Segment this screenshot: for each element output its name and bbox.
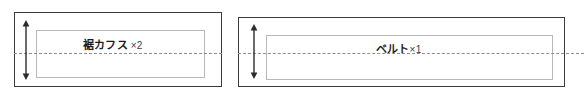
piece-name-right: ベルト bbox=[376, 43, 410, 56]
pattern-piece-label-left: 裾カフス×2 bbox=[83, 36, 143, 52]
pattern-piece-label-right: ベルト×1 bbox=[376, 40, 421, 56]
height-dimension-arrow-right bbox=[248, 24, 260, 79]
height-dimension-arrow-left bbox=[20, 20, 32, 80]
pattern-layout-diagram: 裾カフス×2 ベルト×1 bbox=[0, 0, 584, 101]
piece-quantity-right: ×1 bbox=[410, 44, 422, 55]
piece-name-left: 裾カフス bbox=[83, 39, 128, 52]
fold-line-left bbox=[14, 53, 222, 54]
piece-quantity-left: ×2 bbox=[131, 40, 143, 51]
